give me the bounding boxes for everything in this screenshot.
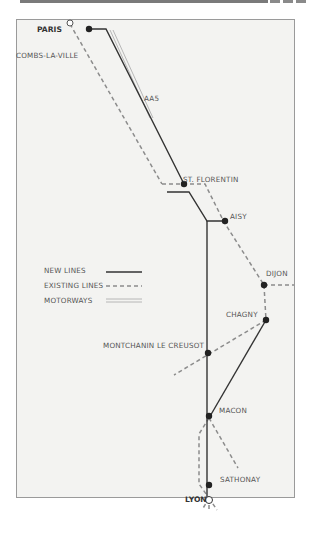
station-chagny[interactable] — [263, 317, 269, 323]
legend-existing-lines-label: EXISTING LINES — [44, 281, 104, 290]
legend-motorways-label: MOTORWAYS — [44, 296, 93, 305]
rail-map: PARIS COMBS-LA-VILLE AA5 ST. FLORENTIN A… — [0, 0, 312, 539]
label-montchanin: MONTCHANIN LE CREUSOT — [103, 341, 205, 350]
station-combs-la-ville[interactable] — [86, 26, 92, 32]
label-aa5: AA5 — [144, 94, 159, 103]
stations — [86, 26, 269, 488]
existing-lines — [70, 24, 294, 510]
station-montchanin[interactable] — [205, 350, 211, 356]
label-lyon: LYON — [185, 495, 207, 504]
label-paris: PARIS — [37, 25, 62, 34]
label-sathonay: SATHONAY — [220, 475, 261, 484]
label-macon: MACON — [219, 406, 247, 415]
station-aisy[interactable] — [222, 218, 228, 224]
legend-new-lines-label: NEW LINES — [44, 266, 86, 275]
label-chagny: CHAGNY — [226, 310, 258, 319]
new-lines — [89, 29, 266, 498]
station-dijon[interactable] — [261, 282, 267, 288]
label-st-florentin: ST. FLORENTIN — [183, 175, 239, 184]
legend: NEW LINES EXISTING LINES MOTORWAYS — [44, 266, 142, 305]
station-sathonay[interactable] — [206, 482, 212, 488]
label-combs-la-ville: COMBS-LA-VILLE — [16, 51, 79, 60]
station-paris[interactable] — [67, 20, 73, 26]
label-aisy: AISY — [230, 212, 247, 221]
station-macon[interactable] — [206, 413, 212, 419]
label-dijon: DIJON — [266, 269, 288, 278]
